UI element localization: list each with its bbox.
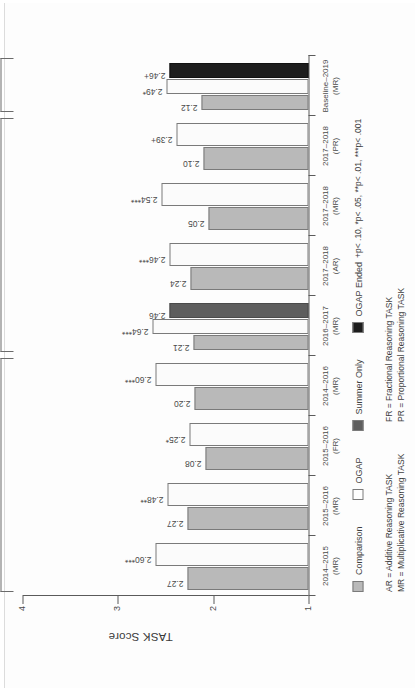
abbrev-mr: MR = Multiplicative Reasoning TASK [394, 454, 406, 592]
bar-value-label: 2.24 [169, 279, 186, 289]
bar-comparison [190, 268, 308, 291]
bar-value-label: 2.49* [142, 87, 162, 97]
bar-comparison [205, 448, 308, 471]
abbreviation-note-right: FR = Fractional Reasoning TASK PR = Prop… [382, 288, 406, 422]
bar-value-label: 2.21 [172, 343, 189, 353]
bar-value-label: 2.27 [166, 579, 183, 589]
bar-comparison [201, 96, 308, 111]
x-axis-tick [308, 595, 315, 596]
legend-label: OGAP Ended [353, 262, 363, 316]
bar-value-label: 2.08 [185, 459, 202, 469]
grouped-bar-chart: TASK Score 1234 2014–2015(MR)2015–2016(M… [0, 0, 415, 688]
x-axis-tick [308, 475, 315, 476]
x-axis-tick [308, 415, 315, 416]
bar-ogap [152, 320, 308, 335]
bracket [0, 58, 13, 112]
bar-ogap [189, 424, 308, 447]
y-axis-tick [117, 596, 118, 604]
bar-ogap [161, 184, 308, 207]
legend-item[interactable]: OGAP [352, 457, 363, 500]
bar-value-label: 2.27 [166, 519, 183, 529]
x-axis-tick [308, 55, 315, 56]
bar-comparison [187, 568, 308, 591]
x-axis-tick [308, 295, 315, 296]
bar-value-label: 2.46*** [138, 255, 164, 265]
y-axis-tick-label: 2 [207, 606, 217, 624]
bar-ogap [166, 80, 308, 95]
x-axis-category-line-2: (MR) [330, 48, 340, 124]
x-axis-tick [308, 535, 315, 536]
bar-value-label: 2.20 [173, 399, 190, 409]
x-axis-tick [308, 235, 315, 236]
bar-value-label: 2.48** [140, 495, 163, 505]
bar-value-label: 2.25* [165, 435, 185, 445]
bar-value-label: 2.39+ [150, 135, 172, 145]
bar-value-label: 2.10 [183, 159, 200, 169]
bar-value-label: 2.54*** [131, 195, 157, 205]
bar-value-label: 2.46+ [143, 71, 165, 81]
bar-ogap [167, 484, 308, 507]
chart-legend: ComparisonOGAPSummer OnlyOGAP Ended [352, 262, 363, 592]
abbrev-fr: FR = Fractional Reasoning TASK [382, 288, 394, 422]
y-axis-title: TASK Score [0, 631, 283, 643]
bar-value-label: 2.46 [148, 311, 165, 321]
legend-swatch-comparison-icon [352, 581, 363, 592]
bar-value-label: 2.64*** [121, 327, 147, 337]
bar-comparison [187, 508, 308, 531]
bar-ogap [155, 364, 308, 387]
bar-value-label: 2.60*** [125, 375, 151, 385]
plot-area: 2.272.60***2.272.48**2.082.25*2.202.60**… [22, 56, 308, 596]
bar-comparison [208, 208, 308, 231]
bar-comparison [203, 148, 308, 171]
y-axis-tick [308, 596, 309, 604]
bracket [0, 358, 13, 592]
legend-swatch-summer-icon [352, 420, 363, 431]
x-axis-tick [308, 115, 315, 116]
bar-ogap [155, 544, 308, 567]
bar-value-label: 2.05 [187, 219, 204, 229]
y-axis-tick [213, 596, 214, 604]
bar-ogap [176, 124, 309, 147]
x-axis-category-label: Baseline–2019(MR) [320, 48, 340, 124]
abbreviation-note-left: AR = Additive Reasoning TASK MR = Multip… [382, 454, 406, 592]
figure-page: TASK Score 1234 2014–2015(MR)2015–2016(M… [0, 0, 415, 688]
legend-swatch-ogap-icon [352, 489, 363, 500]
y-axis-tick-label: 4 [16, 606, 26, 624]
legend-swatch-ended-icon [352, 322, 363, 333]
legend-label: OGAP [353, 457, 363, 483]
legend-item[interactable]: OGAP Ended [352, 262, 363, 333]
x-axis-tick [308, 355, 315, 356]
bracket [0, 118, 13, 352]
rotated-figure-wrapper: TASK Score 1234 2014–2015(MR)2015–2016(M… [0, 0, 415, 688]
abbrev-pr: PR = Proportional Reasoning TASK [394, 288, 406, 422]
legend-item[interactable]: Summer Only [352, 359, 363, 431]
x-axis-tick [308, 175, 315, 176]
y-axis-tick-label: 3 [111, 606, 121, 624]
bar-ogap [169, 244, 308, 267]
abbrev-ar: AR = Additive Reasoning TASK [382, 454, 394, 592]
bar-value-label: 2.12 [181, 103, 198, 113]
legend-label: Summer Only [353, 359, 363, 414]
bar-summer [169, 304, 308, 319]
x-axis-category-line-1: Baseline–2019 [320, 48, 330, 124]
bar-comparison [194, 388, 308, 411]
significance-note: +p< .10, *p< .05, **p< .01, ***p< .001 [352, 119, 362, 258]
y-axis-tick [22, 596, 23, 604]
y-axis-tick-label: 1 [302, 606, 312, 624]
bar-comparison [193, 336, 308, 351]
legend-item[interactable]: Comparison [352, 526, 363, 592]
bar-ended [169, 64, 308, 79]
bar-value-label: 2.60*** [125, 555, 151, 565]
legend-label: Comparison [353, 526, 363, 575]
